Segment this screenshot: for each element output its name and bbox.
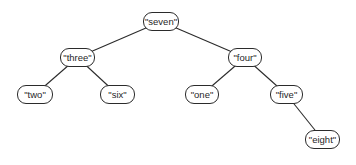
node-five: "five" (270, 85, 303, 104)
node-label: "two" (24, 89, 46, 100)
node-seven: "seven" (143, 12, 179, 31)
node-label: "four" (233, 52, 256, 63)
node-label: "seven" (145, 16, 177, 27)
node-label: "three" (63, 52, 91, 63)
node-eight: "eight" (305, 130, 340, 149)
node-six: "six" (100, 85, 135, 104)
node-label: "five" (276, 89, 298, 100)
node-label: "six" (108, 89, 126, 100)
node-label: "eight" (309, 134, 336, 145)
node-one: "one" (185, 85, 219, 104)
node-label: "one" (191, 89, 214, 100)
node-four: "four" (228, 48, 262, 67)
node-two: "two" (17, 85, 53, 104)
node-three: "three" (60, 48, 95, 67)
tree-diagram: "seven" "three" "four" "two" "six" "one"… (0, 0, 356, 165)
